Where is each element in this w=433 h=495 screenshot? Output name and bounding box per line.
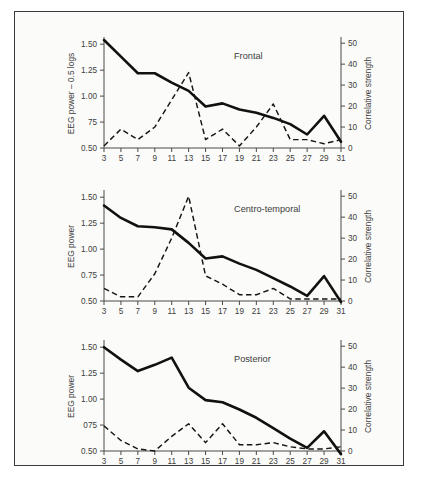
- y-axis-tick-label: 1.50: [81, 40, 97, 49]
- x-axis-label: Frequencies: [107, 166, 153, 167]
- y-axis-tick-label: 1.00: [81, 395, 97, 404]
- series-line-correlative-strength: [104, 196, 341, 299]
- x-axis-tick-label: 23: [269, 457, 279, 466]
- x-axis-tick-label: 5: [119, 457, 124, 466]
- x-axis-tick-label: 3: [102, 457, 107, 466]
- y-axis-tick-label: 1.50: [81, 193, 97, 202]
- x-axis-tick-label: 29: [320, 154, 330, 163]
- y-axis-tick-label: 0.50: [81, 144, 97, 153]
- x-axis-tick-label: 3: [102, 307, 107, 316]
- y-axis-tick-label: 75: [88, 118, 98, 127]
- y-axis-tick-label: 1.50: [81, 343, 97, 352]
- chart-panel-posterior: 1.501.251.000750.50504030201003579111315…: [15, 320, 405, 470]
- x-axis-tick-label: 25: [286, 457, 296, 466]
- panel-title: Posterior: [234, 354, 271, 364]
- panel-title: Frontal: [234, 51, 263, 61]
- x-axis-tick-label: 15: [201, 154, 211, 163]
- x-axis-tick-label: 21: [252, 457, 262, 466]
- y2-axis-label: Correlative strength: [363, 210, 373, 283]
- y2-axis-tick-label: 10: [348, 123, 358, 132]
- x-axis-tick-label: 17: [218, 457, 228, 466]
- y2-axis-tick-label: 30: [348, 384, 358, 393]
- x-axis-label: Frequencies: [107, 469, 153, 470]
- y-axis-tick-label: 1.25: [81, 219, 97, 228]
- x-axis-tick-label: 17: [218, 307, 228, 316]
- y-axis-tick-label: 0.50: [81, 447, 97, 456]
- x-axis-tick-label: 5: [119, 154, 124, 163]
- y2-axis-tick-label: 30: [348, 81, 358, 90]
- y2-axis-tick-label: 20: [348, 405, 358, 414]
- figure-frame: 1.501.251.00750.505040302010035791113151…: [14, 11, 404, 466]
- y-axis-tick-label: 0.50: [81, 297, 97, 306]
- x-axis-tick-label: 29: [320, 457, 330, 466]
- x-axis-tick-label: 23: [269, 307, 279, 316]
- chart-panel-frontal: 1.501.251.00750.505040302010035791113151…: [15, 17, 405, 167]
- y-axis-tick-label: 1.25: [81, 369, 97, 378]
- x-axis-tick-label: 31: [336, 154, 346, 163]
- y-axis-tick-label: 1.00: [81, 92, 97, 101]
- y2-axis-label: Correlative strength: [363, 57, 373, 130]
- y-axis-label: EEG power: [66, 375, 76, 418]
- x-axis-tick-label: 21: [252, 154, 262, 163]
- x-axis-tick-label: 13: [184, 457, 194, 466]
- y2-axis-tick-label: 50: [348, 192, 358, 201]
- y-axis-label: EEG power – 0.5 logs: [66, 53, 76, 134]
- x-axis-tick-label: 7: [136, 457, 141, 466]
- x-axis-tick-label: 25: [286, 154, 296, 163]
- x-axis-tick-label: 3: [102, 154, 107, 163]
- x-axis-tick-label: 19: [235, 457, 245, 466]
- x-axis-tick-label: 13: [184, 307, 194, 316]
- y2-axis-tick-label: 0: [348, 144, 353, 153]
- y-axis-tick-label: 075: [83, 421, 97, 430]
- x-axis-tick-label: 17: [218, 154, 228, 163]
- x-axis-tick-label: 27: [303, 154, 313, 163]
- y-axis-label: EEG power: [66, 225, 76, 268]
- y2-axis-tick-label: 10: [348, 276, 358, 285]
- x-axis-tick-label: 9: [153, 307, 158, 316]
- y2-axis-tick-label: 0: [348, 297, 353, 306]
- x-axis-tick-label: 31: [336, 457, 346, 466]
- x-axis-tick-label: 27: [303, 307, 313, 316]
- x-axis-tick-label: 15: [201, 457, 211, 466]
- x-axis-tick-label: 7: [136, 307, 141, 316]
- y-axis-tick-label: 0.75: [81, 271, 97, 280]
- y2-axis-label: Correlative strength: [363, 360, 373, 433]
- y2-axis-tick-label: 40: [348, 213, 358, 222]
- x-axis-tick-label: 19: [235, 154, 245, 163]
- series-line-eeg-power: [104, 347, 341, 454]
- series-line-eeg-power: [104, 206, 341, 303]
- x-axis-tick-label: 25: [286, 307, 296, 316]
- y2-axis-tick-label: 40: [348, 60, 358, 69]
- x-axis-tick-label: 29: [320, 307, 330, 316]
- y2-axis-tick-label: 50: [348, 342, 358, 351]
- x-axis-tick-label: 23: [269, 154, 279, 163]
- y-axis-tick-label: 1.00: [81, 245, 97, 254]
- x-axis-tick-label: 7: [136, 154, 141, 163]
- y2-axis-tick-label: 50: [348, 39, 358, 48]
- x-axis-tick-label: 11: [167, 307, 176, 316]
- x-axis-tick-label: 15: [201, 307, 211, 316]
- x-axis-tick-label: 27: [303, 457, 313, 466]
- y-axis-tick-label: 1.25: [81, 66, 97, 75]
- panel-title: Centro-temporal: [234, 204, 300, 214]
- x-axis-tick-label: 11: [167, 457, 176, 466]
- y2-axis-tick-label: 30: [348, 234, 358, 243]
- y2-axis-tick-label: 0: [348, 447, 353, 456]
- x-axis-tick-label: 13: [184, 154, 194, 163]
- x-axis-tick-label: 9: [153, 457, 158, 466]
- series-line-eeg-power: [104, 40, 341, 142]
- x-axis-tick-label: 19: [235, 307, 245, 316]
- y2-axis-tick-label: 20: [348, 102, 358, 111]
- y2-axis-tick-label: 10: [348, 426, 358, 435]
- x-axis-tick-label: 9: [153, 154, 158, 163]
- y2-axis-tick-label: 40: [348, 363, 358, 372]
- x-axis-tick-label: 31: [336, 307, 346, 316]
- x-axis-tick-label: 21: [252, 307, 262, 316]
- x-axis-tick-label: 5: [119, 307, 124, 316]
- chart-panel-centro-temporal: 1.501.251.000.750.5050403020100357911131…: [15, 170, 405, 320]
- y2-axis-tick-label: 20: [348, 255, 358, 264]
- x-axis-tick-label: 11: [167, 154, 176, 163]
